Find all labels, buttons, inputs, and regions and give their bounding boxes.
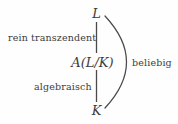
field-extension-diagram: L A(L/K) K rein transzendent algebraisch… [0,0,178,124]
node-label-bottom: K [0,104,178,117]
brace-label-beliebig: beliebig [132,58,172,68]
edge-label-algebraisch: algebraisch [34,82,92,92]
node-label-top: L [0,7,178,20]
edge-label-rein-transzendent: rein transzendent [8,33,96,43]
